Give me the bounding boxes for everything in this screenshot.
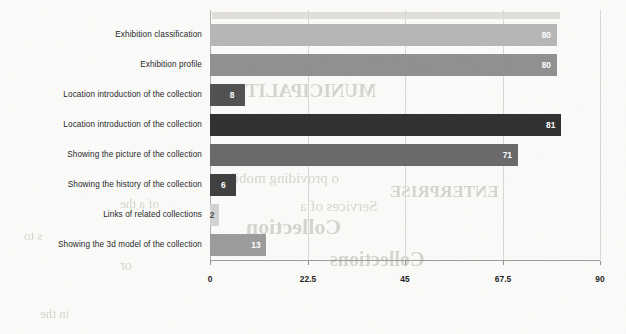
bar [210,24,557,46]
bar-value-label: 2 [210,204,215,226]
category-label: Showing the history of the collection [68,180,202,189]
x-tick-label: 45 [385,274,425,284]
x-tick-mark [405,261,406,265]
gridline [600,10,601,260]
x-tick-mark [503,261,504,265]
category-label: Exhibition classification [115,30,202,39]
x-tick-mark [210,261,211,265]
category-label: Exhibition profile [140,60,202,69]
bar-value-label: 8 [230,84,235,106]
bar-chart: Exhibition classification80Exhibition pr… [0,0,626,334]
x-tick-mark [600,261,601,265]
category-label: Showing the picture of the collection [67,150,202,159]
category-label: Location introduction of the collection [63,120,202,129]
category-label: Showing the 3d model of the collection [58,240,202,249]
bar [210,54,557,76]
category-label: Location introduction of the collection [63,90,202,99]
bar-value-label: 71 [503,144,512,166]
bar-value-label: 81 [546,114,555,136]
bar-value-label: 6 [221,174,226,196]
x-tick-label: 67.5 [483,274,523,284]
bar-value-label: 13 [251,234,260,256]
bar [210,114,561,136]
x-tick-label: 90 [580,274,620,284]
bar-value-label: 80 [542,24,551,46]
x-tick-label: 0 [190,274,230,284]
x-tick-label: 22.5 [288,274,328,284]
x-tick-mark [308,261,309,265]
bar [210,84,245,106]
bar-value-label: 80 [542,54,551,76]
category-label: Links of related collections [103,210,202,219]
bar [210,144,518,166]
